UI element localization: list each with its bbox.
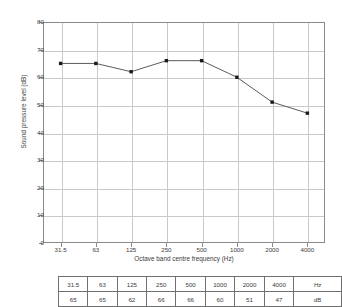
x-axis-tick-label: 250: [146, 246, 186, 253]
table-unit-cell: Hz: [294, 277, 342, 292]
table-cell: 47: [264, 292, 294, 307]
data-point-marker: [165, 59, 168, 62]
table-cell: 51: [235, 292, 265, 307]
table-row: 31.563125250500100020004000Hz: [59, 277, 342, 292]
data-point-marker: [235, 76, 238, 79]
table-unit-cell: dB: [294, 292, 342, 307]
table-cell: 65: [88, 292, 117, 307]
table-cell: 63: [88, 277, 117, 292]
x-axis-tick-label: 2000: [252, 246, 292, 253]
data-point-marker: [59, 62, 62, 65]
data-point-marker: [270, 100, 273, 103]
octave-band-data-table: 31.563125250500100020004000Hz65656266666…: [58, 276, 342, 307]
x-axis-tick-label: 500: [182, 246, 222, 253]
x-axis-tick-label: 31.5: [41, 246, 81, 253]
data-series-layer: [43, 22, 325, 243]
x-axis-tick-label: 125: [111, 246, 151, 253]
table-cell: 66: [176, 292, 205, 307]
table-cell: 65: [59, 292, 88, 307]
y-axis-tick-label: 30: [22, 157, 44, 163]
table-cell: 62: [117, 292, 146, 307]
table-cell: 4000: [264, 277, 294, 292]
table-cell: 2000: [235, 277, 265, 292]
table-cell: 31.5: [59, 277, 88, 292]
table-cell: 125: [117, 277, 146, 292]
y-axis-tick-label: 50: [22, 102, 44, 108]
y-axis-tick-label: 10: [22, 212, 44, 218]
data-point-marker: [306, 111, 309, 114]
table-row: 6565626666605147dB: [59, 292, 342, 307]
y-axis-label: Sound pressure level (dB): [20, 37, 27, 187]
y-axis-tick-label: 70: [22, 47, 44, 53]
table-cell: 500: [176, 277, 205, 292]
series-line: [61, 61, 308, 113]
data-point-marker: [129, 70, 132, 73]
data-point-marker: [200, 59, 203, 62]
x-axis-label: Octave band centre frequency (Hz): [43, 255, 325, 262]
x-axis-tick-label: 4000: [287, 246, 327, 253]
octave-band-spectrum-figure: Sound pressure level (dB) Octave band ce…: [0, 0, 342, 307]
y-axis-tick-label: 60: [22, 74, 44, 80]
table-cell: 250: [147, 277, 176, 292]
table-cell: 66: [147, 292, 176, 307]
y-axis-tick-label: 20: [22, 185, 44, 191]
y-axis-tick-label: 40: [22, 130, 44, 136]
data-point-marker: [94, 62, 97, 65]
table-cell: 60: [205, 292, 235, 307]
x-axis-tick-label: 63: [76, 246, 116, 253]
table-cell: 1000: [205, 277, 235, 292]
y-axis-tick-label: 80: [22, 19, 44, 25]
x-axis-tick-label: 1000: [217, 246, 257, 253]
